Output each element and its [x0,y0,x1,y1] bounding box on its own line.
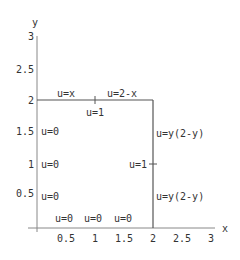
label-right-mid: u=1 [129,159,147,170]
y-axis-label: y [32,17,38,28]
label-right-upper: u=y(2-y) [156,128,204,139]
label-bottom: u=0 [84,213,102,224]
y-tick: 1.5 [16,126,34,137]
x-axis-label: x [222,223,228,234]
label-right-lower: u=y(2-y) [156,191,204,202]
y-tick: 2 [28,95,34,106]
x-tick: 1 [92,233,98,244]
y-tick: 2.5 [16,64,34,75]
y-tick: 0.5 [16,188,34,199]
label-bottom: u=0 [114,213,132,224]
label-top-mid: u=1 [86,107,104,118]
y-tick: 3 [28,31,34,42]
label-left: u=0 [41,191,59,202]
x-tick: 1.5 [115,233,133,244]
x-tick: 2.5 [173,233,191,244]
label-top-right: u=2-x [107,88,137,99]
x-tick: 3 [208,233,214,244]
label-left: u=0 [41,159,59,170]
x-tick: 0.5 [57,233,75,244]
boundary-diagram: y x 0.5 1 1.5 2 2.5 3 0.5 1 1.5 2 2.5 3 … [0,0,240,260]
label-bottom: u=0 [55,213,73,224]
x-tick: 2 [150,233,156,244]
y-tick: 1 [28,159,34,170]
label-top-left: u=x [57,88,75,99]
label-left: u=0 [41,126,59,137]
